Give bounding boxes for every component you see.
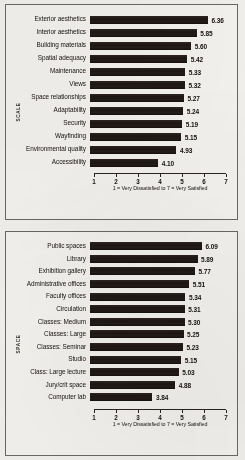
- bar-track: 5.85: [90, 26, 237, 39]
- x-axis-tick-label: 3: [136, 178, 140, 185]
- x-axis-tick-label: 5: [180, 414, 184, 421]
- scale-bar-rows: Exterior aesthetics6.36Interior aestheti…: [6, 13, 237, 169]
- x-axis-tick-label: 2: [114, 178, 118, 185]
- x-axis-tick: [138, 174, 139, 177]
- x-axis-tick: [116, 174, 117, 177]
- bar: [90, 68, 185, 76]
- bar-value-label: 5.24: [187, 107, 199, 114]
- bar-track: 5.27: [90, 91, 237, 104]
- x-axis-tick: [204, 410, 205, 413]
- bar: [90, 356, 181, 364]
- bar-category-label: Accessibility: [6, 159, 90, 165]
- bar: [90, 146, 176, 154]
- bar-track: 5.33: [90, 65, 237, 78]
- bar-track: 4.93: [90, 143, 237, 156]
- bar-track: 5.31: [90, 303, 237, 316]
- bar-category-label: Wayfinding: [6, 133, 90, 139]
- bar: [90, 94, 184, 102]
- space-plot-area: SPACE Public spaces6.09Library5.89Exhibi…: [6, 232, 237, 455]
- bar: [90, 55, 187, 63]
- x-axis-tick: [226, 174, 227, 177]
- x-axis-tick: [160, 410, 161, 413]
- figure-page: SCALE Exterior aesthetics6.36Interior ae…: [0, 0, 245, 460]
- bar-category-label: Classes: Medium: [6, 319, 90, 325]
- bar-category-label: Adaptability: [6, 107, 90, 113]
- bar: [90, 107, 183, 115]
- bar-track: 4.10: [90, 156, 237, 169]
- bar: [90, 42, 191, 50]
- bar-value-label: 5.03: [182, 369, 194, 376]
- bar-track: 6.09: [90, 240, 237, 253]
- bar: [90, 159, 158, 167]
- bar-row: Classes: Medium5.30: [6, 316, 237, 329]
- bar-value-label: 5.23: [187, 344, 199, 351]
- bar-row: Circulation5.31: [6, 303, 237, 316]
- bar-row: Views5.32: [6, 78, 237, 91]
- bar: [90, 242, 202, 250]
- bar-track: 5.15: [90, 130, 237, 143]
- bar-track: 5.42: [90, 52, 237, 65]
- x-axis-tick-label: 7: [224, 414, 228, 421]
- bar-value-label: 5.85: [200, 29, 212, 36]
- bar-track: 5.15: [90, 353, 237, 366]
- x-axis-tick: [182, 174, 183, 177]
- bar-value-label: 5.89: [201, 255, 213, 262]
- bar: [90, 81, 185, 89]
- bar-row: Studio5.15: [6, 353, 237, 366]
- bar-category-label: Security: [6, 120, 90, 126]
- bar-category-label: Administrative offices: [6, 281, 90, 287]
- bar-value-label: 4.93: [180, 146, 192, 153]
- bar-row: Administrative offices5.51: [6, 278, 237, 291]
- x-axis-tick: [204, 174, 205, 177]
- x-axis-tick-label: 1: [92, 178, 96, 185]
- bar-row: Interior aesthetics5.85: [6, 26, 237, 39]
- bar: [90, 255, 198, 263]
- bar-value-label: 5.33: [189, 68, 201, 75]
- bar-track: 5.23: [90, 341, 237, 354]
- bar-value-label: 3.84: [156, 394, 168, 401]
- bar-row: Faculty offices5.34: [6, 290, 237, 303]
- bar-category-label: Faculty offices: [6, 293, 90, 299]
- x-axis-tick: [138, 410, 139, 413]
- bar-track: 3.84: [90, 391, 237, 404]
- bar-track: 5.89: [90, 253, 237, 266]
- bar-row: Maintenance5.33: [6, 65, 237, 78]
- scale-x-axis-caption: 1 = Very Dissatisfied to 7 = Very Satisf…: [94, 185, 226, 191]
- bar-row: Accessibility4.10: [6, 156, 237, 169]
- bar-track: 5.03: [90, 366, 237, 379]
- bar-value-label: 6.09: [205, 243, 217, 250]
- bar-value-label: 5.15: [185, 133, 197, 140]
- bar-row: Classes: Seminar5.23: [6, 341, 237, 354]
- scale-chart-panel: SCALE Exterior aesthetics6.36Interior ae…: [5, 4, 238, 220]
- bar-row: Jury/crit space4.88: [6, 379, 237, 392]
- bar: [90, 381, 175, 389]
- bar-value-label: 5.30: [188, 318, 200, 325]
- bar: [90, 343, 183, 351]
- bar-track: 4.88: [90, 379, 237, 392]
- bar-category-label: Public spaces: [6, 243, 90, 249]
- x-axis-tick: [182, 410, 183, 413]
- bar: [90, 280, 189, 288]
- bar-value-label: 5.51: [193, 281, 205, 288]
- bar-value-label: 5.31: [188, 306, 200, 313]
- bar-row: Environmental quality4.93: [6, 143, 237, 156]
- bar-category-label: Computer lab: [6, 394, 90, 400]
- bar-value-label: 5.32: [189, 81, 201, 88]
- space-chart-panel: SPACE Public spaces6.09Library5.89Exhibi…: [5, 231, 238, 456]
- bar-category-label: Exhibition gallery: [6, 268, 90, 274]
- bar: [90, 318, 185, 326]
- bar-category-label: Views: [6, 81, 90, 87]
- bar-value-label: 5.34: [189, 293, 201, 300]
- bar-category-label: Studio: [6, 356, 90, 362]
- bar-value-label: 4.88: [179, 381, 191, 388]
- bar-row: Library5.89: [6, 253, 237, 266]
- bar: [90, 29, 197, 37]
- bar-track: 5.19: [90, 117, 237, 130]
- bar-value-label: 5.15: [185, 356, 197, 363]
- bar-row: Space relationships5.27: [6, 91, 237, 104]
- bar: [90, 368, 179, 376]
- bar-track: 5.77: [90, 265, 237, 278]
- bar-track: 5.32: [90, 78, 237, 91]
- bar: [90, 293, 185, 301]
- bar: [90, 267, 195, 275]
